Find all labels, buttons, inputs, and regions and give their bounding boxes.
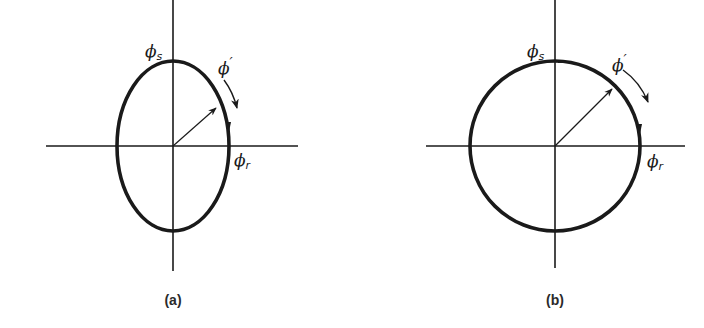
label-phi-s: ϕs: [145, 41, 163, 63]
flux-vector-arrow: [555, 89, 612, 146]
rotation-arrow-icon: [224, 80, 237, 108]
panel-b: ϕs ϕ′ ϕr (b): [426, 0, 685, 308]
label-phi-prime: ϕ′: [218, 55, 234, 78]
flux-locus-figure: ϕs ϕ′ ϕr (a) ϕs ϕ′ ϕr (b): [0, 0, 704, 328]
caption-b: (b): [546, 292, 564, 308]
flux-vector-arrow: [173, 108, 216, 146]
caption-a: (a): [164, 292, 181, 308]
label-phi-r: ϕr: [647, 151, 665, 173]
label-phi-r: ϕr: [234, 150, 252, 172]
label-phi-s: ϕs: [527, 41, 545, 63]
panel-a: ϕs ϕ′ ϕr (a): [46, 0, 298, 308]
